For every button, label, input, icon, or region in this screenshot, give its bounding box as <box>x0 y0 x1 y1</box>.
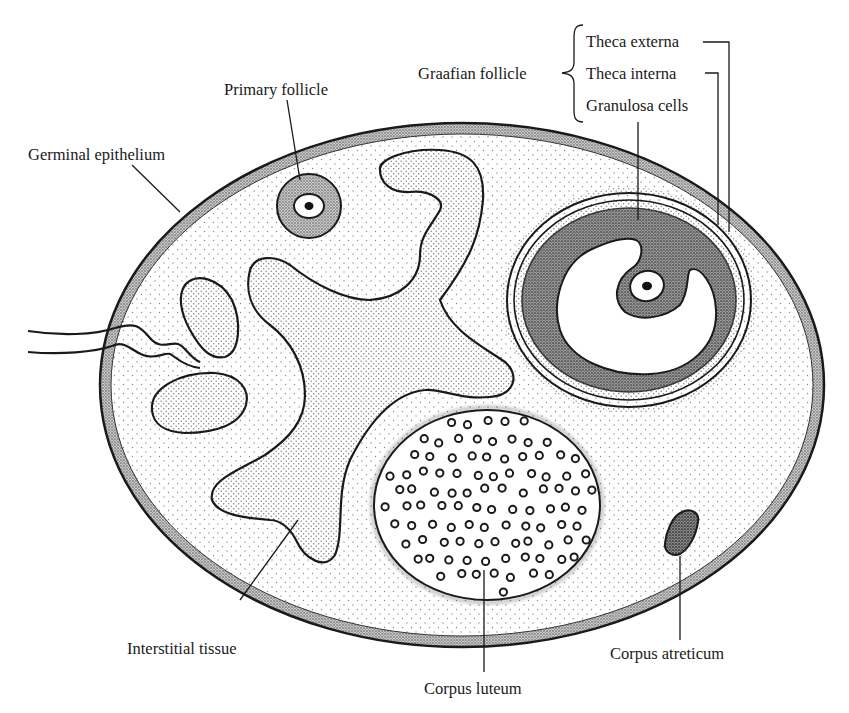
label-graafian-follicle: Graafian follicle <box>418 64 527 83</box>
label-theca-externa: Theca externa <box>586 32 680 51</box>
graafian-brace <box>562 25 583 122</box>
label-granulosa-cells: Granulosa cells <box>586 96 688 115</box>
label-primary-follicle: Primary follicle <box>224 80 328 99</box>
corpus-luteum <box>367 403 607 607</box>
label-corpus-luteum: Corpus luteum <box>424 679 522 698</box>
label-interstitial-tissue: Interstitial tissue <box>127 639 237 658</box>
primary-follicle <box>277 174 341 238</box>
label-theca-interna: Theca interna <box>586 64 677 83</box>
ovary-diagram: Primary follicle Germinal epithelium Gra… <box>0 0 849 713</box>
leader-germinal-epithelium <box>132 165 180 212</box>
label-germinal-epithelium: Germinal epithelium <box>28 145 165 164</box>
label-corpus-atreticum: Corpus atreticum <box>610 644 724 663</box>
